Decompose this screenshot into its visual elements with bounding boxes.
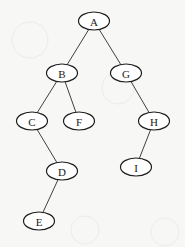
edge-b-c xyxy=(37,81,56,112)
edge-a-g xyxy=(99,29,121,64)
edge-a-b xyxy=(67,29,89,64)
tree-node-a: A xyxy=(79,12,110,30)
edge-c-d xyxy=(37,129,57,162)
edge-h-i xyxy=(139,130,150,158)
tree-node-e: E xyxy=(24,212,55,230)
node-label: H xyxy=(150,116,158,128)
tree-node-i: I xyxy=(121,158,152,176)
tree-diagram: ABGCFHDIE xyxy=(0,0,185,247)
tree-nodes: ABGCFHDIE xyxy=(17,12,170,230)
edge-g-h xyxy=(131,82,149,113)
tree-node-b: B xyxy=(47,64,78,82)
tree-node-f: F xyxy=(64,112,95,130)
edge-d-e xyxy=(43,180,58,213)
node-label: D xyxy=(58,166,66,178)
node-label: G xyxy=(122,68,130,80)
node-label: F xyxy=(76,116,82,128)
node-label: A xyxy=(90,16,98,28)
tree-node-g: G xyxy=(111,64,142,82)
tree-node-h: H xyxy=(139,112,170,130)
node-label: E xyxy=(36,216,43,228)
edge-b-f xyxy=(65,82,76,112)
tree-node-d: D xyxy=(47,162,78,180)
node-label: B xyxy=(58,68,65,80)
node-label: I xyxy=(134,162,138,174)
node-label: C xyxy=(28,116,35,128)
tree-node-c: C xyxy=(17,112,48,130)
